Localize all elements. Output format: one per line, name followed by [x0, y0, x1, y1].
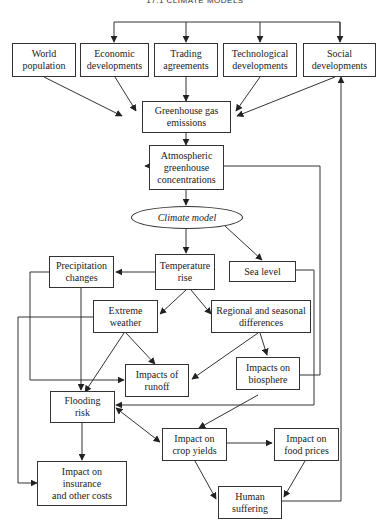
node-technological-developments: Technological developments: [223, 43, 297, 77]
node-impacts-of-runoff: Impacts of runoff: [125, 364, 189, 397]
node-temperature-rise: Temperature rise: [155, 254, 215, 290]
node-precipitation-changes: Precipitation changes: [49, 256, 114, 288]
node-impacts-on-biosphere: Impacts on biosphere: [236, 357, 300, 390]
node-trading-agreements: Trading agreements: [154, 43, 218, 77]
node-greenhouse-gas-emissions: Greenhouse gas emissions: [142, 101, 231, 133]
node-world-population: World population: [12, 43, 76, 77]
node-economic-developments: Economic developments: [80, 43, 149, 77]
node-regional-seasonal-differences: Regional and seasonal differences: [211, 300, 311, 333]
node-impact-insurance-costs: Impact on insurance and other costs: [37, 461, 127, 506]
node-human-suffering: Human suffering: [218, 486, 282, 519]
node-climate-model: Climate model: [131, 206, 243, 229]
node-flooding-risk: Flooding risk: [50, 391, 115, 423]
node-atmospheric-greenhouse-concentrations: Atmospheric greenhouse concentrations: [149, 145, 224, 190]
node-sea-level: Sea level: [229, 261, 296, 282]
node-impact-food-prices: Impact on food prices: [274, 428, 339, 461]
node-social-developments: Social developments: [303, 43, 376, 77]
node-impact-crop-yields: Impact on crop yields: [162, 428, 227, 461]
node-extreme-weather: Extreme weather: [93, 300, 158, 333]
